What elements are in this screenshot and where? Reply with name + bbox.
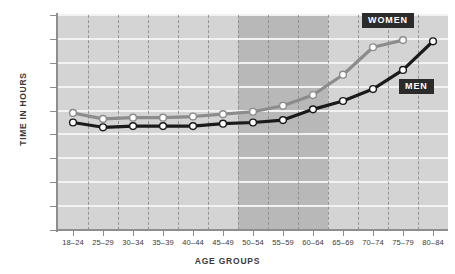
data-point-marker: [70, 110, 77, 117]
data-point-marker: [220, 111, 227, 118]
data-point-marker: [160, 123, 167, 130]
data-point-marker: [400, 67, 407, 74]
line-chart: TIME IN HOURS 024681012141618 18–2425–29…: [0, 0, 455, 274]
data-point-marker: [310, 92, 317, 99]
legend-chip-women: WOMEN: [362, 13, 414, 28]
data-point-marker: [400, 37, 407, 44]
data-point-marker: [430, 38, 437, 45]
data-point-marker: [70, 119, 77, 126]
x-axis-title: AGE GROUPS: [0, 256, 455, 266]
data-point-marker: [160, 114, 167, 121]
data-point-marker: [370, 44, 377, 51]
data-point-marker: [130, 114, 137, 121]
data-point-marker: [100, 124, 107, 131]
series-line-women: [73, 40, 403, 119]
data-point-marker: [280, 117, 287, 124]
data-point-marker: [250, 108, 257, 115]
series-layer: [0, 0, 455, 274]
data-point-marker: [130, 123, 137, 130]
data-point-marker: [250, 119, 257, 126]
data-point-marker: [220, 120, 227, 127]
data-point-marker: [340, 98, 347, 105]
data-point-marker: [190, 123, 197, 130]
data-point-marker: [340, 71, 347, 78]
data-point-marker: [370, 86, 377, 93]
data-point-marker: [100, 116, 107, 123]
data-point-marker: [190, 113, 197, 120]
data-point-marker: [310, 106, 317, 113]
data-point-marker: [280, 102, 287, 109]
legend-chip-men: MEN: [399, 79, 434, 94]
